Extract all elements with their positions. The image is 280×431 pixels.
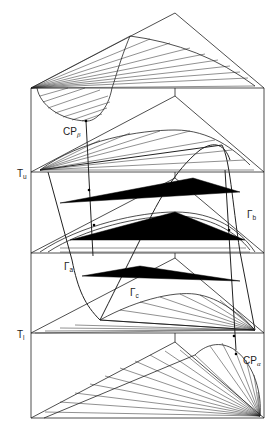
label-cp-beta: CPβ — [63, 126, 81, 139]
label-gamma-b: Γb — [247, 209, 257, 221]
label-gamma-c: Γc — [130, 287, 140, 299]
label-cp-alpha: CPα — [243, 355, 261, 368]
top-section — [31, 13, 264, 121]
label-t-upper: Tu — [17, 168, 27, 180]
label-t-lower: Tl — [17, 329, 25, 341]
tie-triangles — [60, 178, 245, 281]
bottom-section — [31, 333, 264, 418]
phase-diagram: Tu Tl CPβ CPα Γa Γb Γc — [0, 0, 280, 431]
